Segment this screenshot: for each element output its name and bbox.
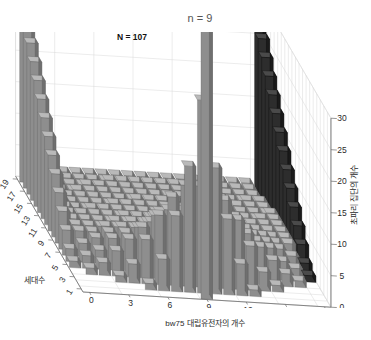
bar-side-face [167, 254, 170, 291]
y-tick-label: 11 [26, 226, 39, 239]
y-tick-label: 7 [42, 250, 53, 260]
bar-top-face [251, 8, 266, 14]
grid-back-horizontal [16, 0, 264, 2]
y-tick-label: 3 [57, 275, 68, 285]
y-axis-title: 세대수 [24, 276, 45, 285]
z-tick-label: 0 [340, 302, 345, 312]
z-axis-title: 초파리 집단의 개수 [349, 165, 359, 225]
y-tick-label: 19 [0, 177, 11, 191]
x-tick-label: 15 [282, 307, 292, 317]
y-tick-label: 9 [35, 238, 46, 248]
z-tick-label: 20 [337, 176, 347, 186]
z-tick-label: 30 [337, 113, 347, 123]
bar-top-face [198, 25, 213, 31]
bar-side-face [219, 163, 222, 294]
bar-side-face [150, 235, 153, 284]
bar3d-chart: 0369121518135791113151719051015202530 bw… [0, 0, 371, 340]
y-tick-label: 13 [19, 214, 33, 228]
z-tick-label: 15 [337, 208, 347, 218]
x-tick-label: 9 [207, 302, 212, 312]
z-tick-label: 5 [340, 271, 345, 281]
y-tick-label: 15 [12, 202, 26, 216]
y-tick-label: 17 [4, 189, 18, 203]
bar-side-face [254, 241, 257, 290]
z-tick-label: 10 [337, 239, 347, 249]
peak-annotation: N = 107 [117, 32, 147, 42]
x-tick-label: 12 [243, 305, 253, 315]
x-tick-label: 6 [167, 300, 172, 310]
x-tick-label: 3 [128, 298, 133, 308]
bar-side-face [245, 259, 248, 296]
y-tick-label: 5 [50, 263, 61, 273]
bar-side-face [209, 26, 212, 300]
x-axis-title: bw75 대립유전자의 개수 [165, 318, 245, 328]
bar-top-face [20, 19, 35, 25]
figure-container: 0369121518135791113151719051015202530 bw… [0, 0, 371, 340]
chart-title: n = 9 [188, 12, 213, 24]
x-tick-label: 0 [89, 295, 94, 305]
bar-side-face [180, 211, 183, 292]
bar-side-face [193, 161, 196, 292]
bar-side-face [232, 214, 235, 295]
y-tick-label: 1 [64, 287, 75, 297]
z-tick-label: 25 [337, 145, 347, 155]
x-tick-label: 18 [322, 310, 332, 320]
